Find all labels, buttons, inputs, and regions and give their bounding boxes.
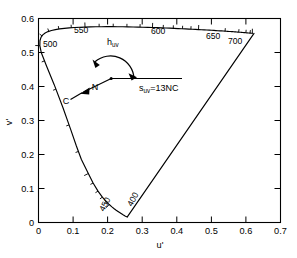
- hue-angle-label: huv: [107, 37, 120, 48]
- wavelength-label-650: 650: [206, 31, 221, 41]
- y-tick-label: 0.5: [21, 48, 34, 58]
- y-tick-label: 0.6: [21, 14, 34, 24]
- x-tick-labels: 0 0.1 0.2 0.3 0.4 0.5 0.6 0.7: [36, 226, 287, 236]
- wavelength-tick-520: [48, 29, 49, 32]
- wavelength-tick-470: [66, 125, 69, 126]
- y-tick-label: 0: [29, 218, 34, 228]
- x-tick-label: 0: [36, 226, 41, 236]
- hue-saturation-annotation: huv N C suv=13NC: [63, 37, 182, 106]
- y-axis-ticks: [39, 19, 281, 223]
- x-tick-label: 0.5: [205, 226, 218, 236]
- purple-line: [127, 33, 254, 216]
- x-tick-label: 0.7: [274, 226, 287, 236]
- hue-arc-arrowhead-right: [129, 73, 138, 80]
- wavelength-tick-450: [84, 174, 88, 176]
- wavelength-tick-480: [53, 89, 56, 90]
- x-tick-label: 0.1: [67, 226, 80, 236]
- y-tick-label: 0.2: [21, 150, 34, 160]
- wavelength-tick-460: [76, 151, 79, 152]
- plot-frame: [39, 19, 281, 223]
- x-tick-label: 0.6: [240, 226, 253, 236]
- y-tick-labels: 0 0.1 0.2 0.3 0.4 0.5 0.6: [21, 14, 34, 228]
- wavelength-tick-marks: [35, 22, 252, 207]
- y-tick-label: 0.1: [21, 184, 34, 194]
- x-axis-label: u': [157, 240, 164, 250]
- wavelength-tick-440: [90, 183, 93, 184]
- point-n-label: N: [92, 82, 99, 92]
- wavelength-labels: 500 550 600 650 700 450 400: [43, 25, 243, 213]
- x-tick-label: 0.4: [170, 226, 183, 236]
- chart-svg: 0 0.1 0.2 0.3 0.4 0.5 0.6 0.7 0 0.1 0.2 …: [0, 0, 297, 258]
- wavelength-label-400: 400: [125, 190, 141, 208]
- chroma-tail: [71, 93, 83, 100]
- spectral-locus-group: [40, 27, 254, 217]
- y-tick-label: 0.3: [21, 116, 34, 126]
- wavelength-tick-430: [95, 191, 98, 193]
- y-axis-label: v': [4, 119, 14, 126]
- chromaticity-figure: 0 0.1 0.2 0.3 0.4 0.5 0.6 0.7 0 0.1 0.2 …: [0, 0, 297, 258]
- wavelength-label-600: 600: [151, 26, 166, 36]
- hue-angle-arc: [95, 56, 134, 79]
- wavelength-label-500: 500: [43, 39, 58, 49]
- wavelength-tick-490: [42, 61, 45, 62]
- point-n-dot: [110, 77, 113, 80]
- x-axis-ticks: [39, 19, 281, 223]
- wavelength-tick-510: [40, 34, 42, 36]
- point-c-label: C: [63, 96, 70, 106]
- spectral-locus-curve: [40, 27, 253, 217]
- wavelength-label-450: 450: [97, 195, 113, 213]
- x-tick-label: 0.3: [136, 226, 149, 236]
- wavelength-label-550: 550: [74, 25, 89, 35]
- x-tick-label: 0.2: [101, 226, 114, 236]
- saturation-label: suv=13NC: [139, 83, 179, 94]
- wavelength-label-700: 700: [228, 36, 243, 46]
- y-tick-label: 0.4: [21, 82, 34, 92]
